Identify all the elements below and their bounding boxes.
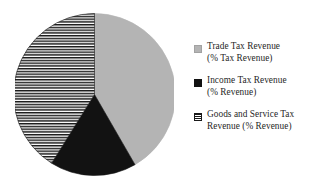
legend-label-line2: (% Tax Revenue) <box>207 53 280 65</box>
pie-chart-graphic <box>15 13 174 176</box>
legend-item-income-tax-revenue: Income Tax Revenue (% Revenue) <box>194 75 315 98</box>
legend-label-goods-and-service-tax-revenue: Goods and Service Tax Revenue (% Revenue… <box>207 109 294 132</box>
legend-swatch-striped-icon <box>194 113 202 121</box>
pie-chart-figure: Trade Tax Revenue (% Tax Revenue) Income… <box>0 0 315 185</box>
pie-svg <box>15 13 174 176</box>
legend-label-trade-tax-revenue: Trade Tax Revenue (% Tax Revenue) <box>207 41 280 64</box>
legend-label-income-tax-revenue: Income Tax Revenue (% Revenue) <box>207 75 287 98</box>
legend-item-trade-tax-revenue: Trade Tax Revenue (% Tax Revenue) <box>194 41 315 64</box>
legend-swatch-black-icon <box>194 79 202 87</box>
legend-item-goods-and-service-tax-revenue: Goods and Service Tax Revenue (% Revenue… <box>194 109 315 132</box>
legend-label-line2: (% Revenue) <box>207 87 287 99</box>
chart-legend: Trade Tax Revenue (% Tax Revenue) Income… <box>194 41 315 143</box>
legend-label-line1: Trade Tax Revenue <box>207 41 280 51</box>
legend-label-line1: Income Tax Revenue <box>207 75 287 85</box>
legend-label-line1: Goods and Service Tax <box>207 109 294 119</box>
legend-label-line2: Revenue (% Revenue) <box>207 121 294 133</box>
legend-swatch-gray-icon <box>194 45 202 53</box>
